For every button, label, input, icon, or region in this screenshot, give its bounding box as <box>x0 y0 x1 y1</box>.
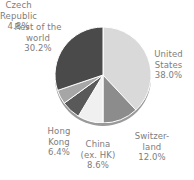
slice-label-hong-kong: Hong Kong 6.4% <box>42 126 76 158</box>
pie-chart: Rest of the world 30.2% United States 38… <box>0 0 194 180</box>
slice-label-united-states: United States 38.0% <box>145 49 192 81</box>
slice-label-switzerland: Switzer- land 12.0% <box>127 131 177 163</box>
slice-label-china: China (ex. HK) 8.6% <box>74 139 122 171</box>
slice-label-czech-republic: Czech Republic 4.8% <box>0 0 37 32</box>
